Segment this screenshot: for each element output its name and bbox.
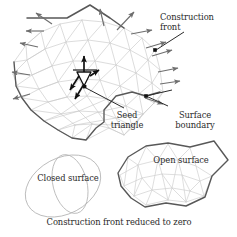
- seed-arrow-down: [75, 84, 84, 99]
- open-surface-boundary: [118, 141, 228, 207]
- front-arrow-right-1: [131, 30, 152, 34]
- closed-surface-ellipse-inner: [46, 151, 94, 217]
- front-arrow-right-5: [160, 81, 180, 84]
- label-construction-front-line2: front: [160, 22, 214, 32]
- leader-seed-triangle: [86, 88, 124, 108]
- front-arrow-top-2: [100, 9, 104, 26]
- label-closed-surface: Closed surface: [25, 173, 111, 183]
- leader-surface-boundary-2: [146, 90, 172, 96]
- construction-front-dot: [153, 48, 157, 52]
- surface-boundary-dot: [144, 94, 148, 98]
- figure-caption: Construction front reduced to zero: [18, 217, 220, 227]
- front-arrow-left-2: [20, 43, 38, 47]
- label-seed-triangle-line1: Seed: [104, 110, 150, 120]
- label-construction-front: Construction front: [160, 12, 214, 32]
- label-seed-triangle-line2: triangle: [104, 120, 150, 130]
- label-construction-front-line1: Construction: [160, 12, 214, 22]
- label-open-surface: Open surface: [145, 155, 217, 165]
- leader-surface-boundary: [146, 96, 168, 106]
- figure-container: Construction front Seed triangle Surface…: [0, 0, 237, 237]
- seed-arrow-right: [90, 70, 99, 76]
- front-arrow-top-3: [117, 12, 134, 30]
- label-surface-boundary: Surface boundary: [164, 110, 226, 130]
- leader-construction-front: [156, 32, 184, 50]
- front-arrow-right-4: [158, 68, 178, 72]
- seed-vertex-marker: [83, 85, 86, 88]
- label-seed-triangle: Seed triangle: [104, 110, 150, 130]
- label-surface-boundary-line1: Surface: [164, 110, 226, 120]
- seed-arrow-left: [70, 76, 79, 90]
- label-surface-boundary-line2: boundary: [164, 120, 226, 130]
